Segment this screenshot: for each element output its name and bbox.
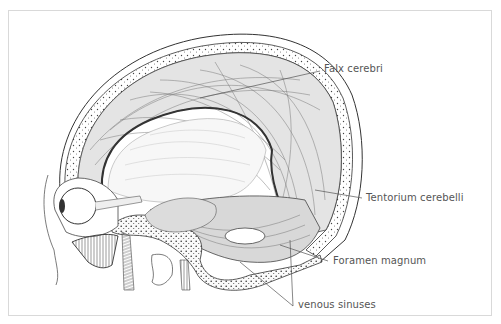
brain-medial-area [108,119,266,203]
label-tentorium-cerebelli: Tentorium cerebelli [366,192,464,203]
label-foramen-magnum: Foramen magnum [333,255,426,266]
eye-cornea [59,199,65,213]
eyeball [60,188,96,224]
skull-dura-illustration [0,0,501,324]
maxillary-sinus [72,234,118,267]
styloid-process [180,260,190,290]
label-venous-sinuses: venous sinuses [298,299,376,310]
label-falx-cerebri: Falx cerebri [324,63,383,74]
foramen-magnum [225,228,265,244]
pterygoid-plates [122,232,134,290]
mastoid-process [152,254,173,285]
